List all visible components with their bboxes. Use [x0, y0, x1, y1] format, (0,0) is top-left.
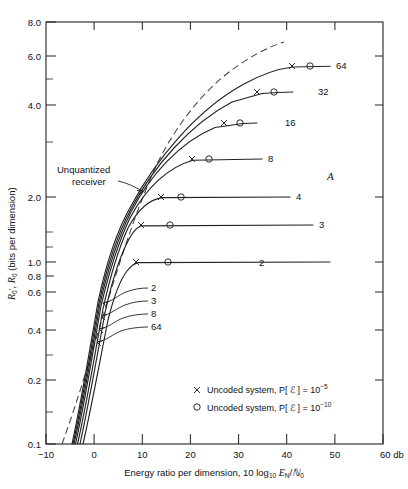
- y-tick-labels: 8.0 6.0 4.0 2.0 1.0 0.8 0.6 0.4 0.2 0.1: [28, 17, 41, 450]
- annotation-line-2: receiver: [72, 176, 106, 187]
- y-axis-title: R0′, R0 (bits per dimension): [6, 187, 18, 301]
- y-axis-ticks: [46, 22, 56, 444]
- legend-o-marker: [194, 404, 200, 410]
- annotation-line-1: Unquantized: [57, 164, 110, 175]
- y-tick-label: 1.0: [28, 257, 41, 268]
- svg-text:R0′, R0 (bits per dimension): R0′, R0 (bits per dimension): [6, 187, 18, 301]
- legend-label-1: Uncoded system, P[ ℰ ] = 10−5: [207, 383, 328, 395]
- curve-label-64: 64: [336, 60, 347, 71]
- lower-label-8: 8: [151, 308, 156, 319]
- lower-label-3: 3: [151, 295, 156, 306]
- chart-figure: 8.0 6.0 4.0 2.0 1.0 0.8 0.6 0.4 0.2 0.1: [0, 0, 408, 489]
- y-tick-label: 0.2: [28, 375, 41, 386]
- curve-label-16: 16: [285, 117, 296, 128]
- legend-x-marker: [194, 387, 200, 393]
- curve-m8: [76, 159, 263, 444]
- y-tick-label: 2.0: [28, 192, 41, 203]
- curve-labels-right: 64 32 16 8 4 3 2: [259, 60, 347, 268]
- panel-label-a: A: [326, 170, 334, 182]
- x-tick-label: 30: [233, 449, 244, 460]
- curve-label-2: 2: [259, 257, 264, 268]
- legend: Uncoded system, P[ ℰ ] = 10−5 Uncoded sy…: [194, 383, 332, 413]
- x-tick-label: 10: [137, 449, 148, 460]
- curve-label-3: 3: [319, 219, 324, 230]
- curve-label-4: 4: [296, 191, 301, 202]
- legend-label-2: Uncoded system, P[ ℰ ] = 10−10: [207, 401, 332, 413]
- x-tick-label: −10: [38, 449, 54, 460]
- curve-label-32: 32: [318, 86, 329, 97]
- y-tick-label: 4.0: [28, 100, 41, 111]
- y-tick-label: 6.0: [28, 51, 41, 62]
- x-tick-label: 40: [281, 449, 292, 460]
- y-tick-label: 8.0: [28, 17, 41, 28]
- x-tick-label: 0: [91, 449, 96, 460]
- x-tick-label: 20: [185, 449, 196, 460]
- y-tick-label: 0.6: [28, 287, 41, 298]
- lower-label-2: 2: [151, 282, 156, 293]
- lower-label-64: 64: [151, 321, 162, 332]
- svg-text:Energy ratio per dimension, 10: Energy ratio per dimension, 10 log10 EN/…: [124, 467, 304, 479]
- o-marker: [165, 63, 313, 265]
- curve-label-8: 8: [268, 153, 273, 164]
- curve-m2: [83, 262, 330, 444]
- x-tick-label: 50: [330, 449, 341, 460]
- y-tick-label: 0.4: [28, 325, 41, 336]
- x-tick-labels: −10 0 10 20 30 40 50 60 db: [38, 449, 404, 460]
- y-tick-label: 0.8: [28, 271, 41, 282]
- x-unit-label: 60 db: [380, 449, 404, 460]
- x-axis-title: Energy ratio per dimension, 10 log10 EN/…: [124, 467, 304, 479]
- annotation-unquantized-receiver: Unquantized receiver: [57, 164, 143, 195]
